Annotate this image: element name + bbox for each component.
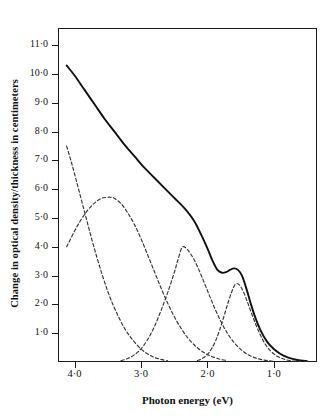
- x-axis-title: Photon energy (eV): [58, 394, 317, 406]
- y-tick-label: 10·0: [8, 67, 48, 78]
- x-tick-label: 1·0: [257, 368, 291, 379]
- y-tick-mark: [52, 247, 59, 248]
- figure-root: Change in optical density/thickness in c…: [0, 0, 334, 420]
- y-tick-mark: [52, 160, 59, 161]
- y-tick-label: 11·0: [8, 38, 48, 49]
- y-tick-mark: [52, 276, 59, 277]
- y-tick-mark: [52, 304, 59, 305]
- x-tick-label: 2·0: [190, 368, 224, 379]
- y-tick-mark: [52, 103, 59, 104]
- curve-group: [67, 65, 307, 361]
- y-tick-mark: [52, 74, 59, 75]
- y-tick-mark: [52, 189, 59, 190]
- y-tick-label: 1·0: [8, 326, 48, 337]
- plot-canvas: [58, 28, 317, 362]
- y-tick-mark: [52, 218, 59, 219]
- curve-gaussian-component-uv-band: [67, 146, 168, 361]
- y-tick-label: 6·0: [8, 182, 48, 193]
- x-tick-label: 4·0: [58, 368, 92, 379]
- curve-total-absorption-envelope: [67, 65, 307, 361]
- y-tick-label: 7·0: [8, 153, 48, 164]
- y-tick-mark: [52, 45, 59, 46]
- y-tick-label: 8·0: [8, 125, 48, 136]
- y-tick-label: 4·0: [8, 240, 48, 251]
- curve-gaussian-component-band-3: [197, 284, 307, 362]
- y-tick-label: 9·0: [8, 96, 48, 107]
- y-tick-mark: [52, 132, 59, 133]
- y-tick-label: 5·0: [8, 211, 48, 222]
- x-tick-label: 3·0: [124, 368, 158, 379]
- y-tick-mark: [52, 333, 59, 334]
- y-tick-label: 2·0: [8, 297, 48, 308]
- y-tick-label: 3·0: [8, 269, 48, 280]
